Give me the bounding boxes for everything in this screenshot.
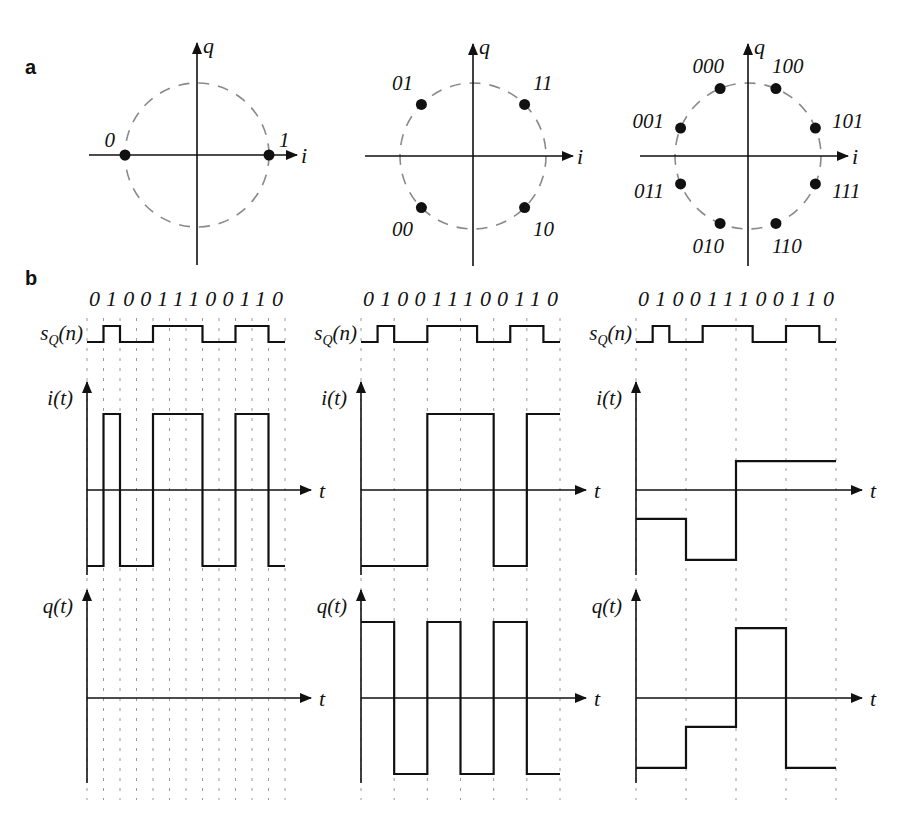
i-t-label: i(t) <box>47 386 73 410</box>
i-t-label: i(t) <box>596 386 622 410</box>
point-label: 11 <box>533 71 552 95</box>
i-t-label: i(t) <box>321 386 347 410</box>
bit-string: 010011100110 <box>638 286 834 311</box>
constellation-point <box>770 83 781 94</box>
modulation-figure: a b iq01iq11010010iq10110000000101101011… <box>0 0 899 823</box>
constellation-point <box>120 150 131 161</box>
point-label: 00 <box>392 217 414 241</box>
point-label: 101 <box>832 109 864 133</box>
i-axis-label: i <box>852 144 858 169</box>
q-t-label: q(t) <box>317 594 347 618</box>
i-axis-label: i <box>301 143 307 168</box>
constellation-point <box>810 123 821 134</box>
q-t-label: q(t) <box>43 594 73 618</box>
q-axis-label: q <box>203 33 214 58</box>
constellation-point <box>675 123 686 134</box>
constellation-8psk: iq101100000001011010110111 <box>632 34 863 266</box>
constellation-point <box>675 178 686 189</box>
point-label: 100 <box>772 54 804 78</box>
i-axis-label: i <box>577 144 583 169</box>
bit-string: 010011100110 <box>363 286 558 311</box>
constellation-point <box>810 178 821 189</box>
t-label: t <box>319 686 326 711</box>
sq-label: sQ(n) <box>314 321 357 348</box>
point-label: 011 <box>634 179 664 203</box>
panel-b-label: b <box>25 267 37 289</box>
t-label: t <box>594 686 601 711</box>
q-t-label: q(t) <box>592 594 622 618</box>
constellation-point <box>770 218 781 229</box>
t-label: t <box>870 686 877 711</box>
point-label: 01 <box>392 71 413 95</box>
sq-label: sQ(n) <box>40 321 83 348</box>
i-t-waveform <box>636 461 836 560</box>
t-label: t <box>594 478 601 503</box>
panel-a-label: a <box>25 56 37 78</box>
constellation-point <box>715 83 726 94</box>
constellation-point <box>519 202 530 213</box>
constellation-point <box>519 99 530 110</box>
point-label: 010 <box>693 234 725 258</box>
constellation-point <box>715 218 726 229</box>
q-axis-label: q <box>479 34 490 59</box>
constellation-bpsk: iq01 <box>89 33 307 265</box>
t-label: t <box>870 478 877 503</box>
timing-diagrams: 010011100110sQ(n)i(t)tq(t)t010011100110s… <box>40 286 877 800</box>
point-label: 0 <box>105 128 116 152</box>
point-label: 111 <box>832 179 860 203</box>
sq-label: sQ(n) <box>589 321 632 348</box>
timing-column-8psk: 010011100110sQ(n)i(t)tq(t)t <box>589 286 877 800</box>
constellation-point <box>264 150 275 161</box>
constellation-point <box>416 99 427 110</box>
timing-column-bpsk: 010011100110sQ(n)i(t)tq(t)t <box>40 286 326 800</box>
t-label: t <box>319 478 326 503</box>
point-label: 110 <box>772 234 802 258</box>
constellation-qpsk: iq11010010 <box>365 34 583 266</box>
q-axis-label: q <box>754 34 765 59</box>
point-label: 000 <box>693 54 725 78</box>
point-label: 10 <box>533 217 555 241</box>
constellation-point <box>416 202 427 213</box>
point-label: 1 <box>279 128 290 152</box>
point-label: 001 <box>632 109 664 133</box>
bit-string: 010011100110 <box>89 286 283 311</box>
timing-column-qpsk: 010011100110sQ(n)i(t)tq(t)t <box>314 286 601 800</box>
constellation-diagrams: iq01iq11010010iq101100000001011010110111 <box>89 33 864 266</box>
